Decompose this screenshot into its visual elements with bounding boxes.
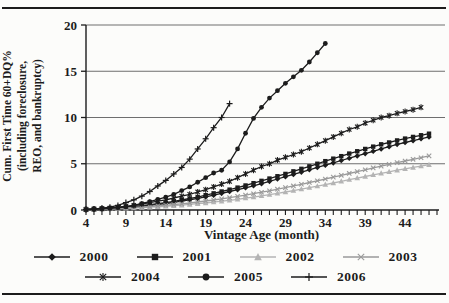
marker-circle <box>235 147 240 152</box>
series-2002-line <box>86 165 429 210</box>
y-tick-label-20: 20 <box>64 18 77 33</box>
legend-item-2000: 2000 <box>32 247 109 266</box>
marker-diamond <box>338 158 344 164</box>
legend-item-2002: 2002 <box>238 247 315 266</box>
legend-label-2000: 2000 <box>80 249 109 265</box>
marker-square <box>379 142 383 146</box>
y-tick-label-0: 0 <box>71 203 78 218</box>
legend-marker-circle-icon <box>186 271 226 283</box>
marker-circle <box>291 74 296 79</box>
marker-diamond <box>330 160 336 166</box>
legend-marker-triangle-icon <box>238 251 278 263</box>
y-tick-label-15: 15 <box>64 64 78 79</box>
marker-diamond <box>362 151 368 157</box>
y-tick-label-10: 10 <box>64 110 77 125</box>
marker-square <box>411 135 415 139</box>
legend-marker-x-icon <box>341 251 381 263</box>
marker-square <box>371 144 375 148</box>
marker-square <box>395 138 399 142</box>
marker-square <box>299 167 303 171</box>
marker-circle <box>251 116 256 121</box>
marker-square <box>331 156 335 160</box>
marker-square <box>339 154 343 158</box>
marker-circle <box>299 68 304 73</box>
marker-circle <box>171 192 176 197</box>
legend-label-2001: 2001 <box>183 249 212 265</box>
x-axis-label: Vintage Age (month) <box>86 227 437 243</box>
marker-diamond <box>370 148 376 154</box>
marker-square <box>251 181 255 185</box>
legend-item-2005: 2005 <box>186 267 263 286</box>
chart-plot-area: 051015204914192429343944 <box>0 0 449 246</box>
marker-triangle <box>426 162 432 167</box>
marker-circle <box>283 81 288 86</box>
legend-label-2005: 2005 <box>234 269 263 285</box>
marker-circle <box>147 199 152 204</box>
marker-square <box>227 187 231 191</box>
marker-circle <box>179 188 184 193</box>
legend-label-2004: 2004 <box>131 269 160 285</box>
marker-square <box>291 169 295 173</box>
y-axis-label: Cum. First Time 60+DQ% (including forecl… <box>0 21 48 211</box>
marker-circle <box>195 180 200 185</box>
legend-item-2004: 2004 <box>83 267 160 286</box>
marker-square <box>427 131 431 135</box>
marker-square <box>211 191 215 195</box>
legend-marker-diamond-icon <box>32 251 72 263</box>
y-axis-label-line2: (including foreclosure, <box>15 21 30 211</box>
marker-circle <box>259 105 264 110</box>
marker-square <box>323 159 327 163</box>
marker-square <box>307 164 311 168</box>
marker-square <box>203 193 207 197</box>
legend-item-2001: 2001 <box>135 247 212 266</box>
marker-square <box>403 136 407 140</box>
marker-circle <box>203 175 208 180</box>
marker-square <box>267 176 271 180</box>
marker-diamond <box>354 153 360 159</box>
marker-diamond <box>386 144 392 150</box>
legend-label-2006: 2006 <box>337 269 366 285</box>
marker-square <box>235 185 239 189</box>
legend-row-2: 200420052006 <box>83 267 366 286</box>
marker-circle <box>307 60 312 65</box>
marker-circle <box>155 197 160 202</box>
legend-label-2002: 2002 <box>286 249 315 265</box>
marker-diamond <box>378 146 384 152</box>
marker-circle <box>211 171 216 176</box>
marker-diamond <box>48 253 56 261</box>
y-axis-label-line3: REO, and bankruptcy) <box>30 21 45 211</box>
marker-square <box>219 189 223 193</box>
marker-circle <box>139 201 144 206</box>
marker-square <box>243 183 247 187</box>
marker-circle <box>187 184 192 189</box>
marker-circle <box>203 273 210 280</box>
marker-square <box>387 140 391 144</box>
legend-marker-square-icon <box>135 251 175 263</box>
legend-item-2006: 2006 <box>289 267 366 286</box>
marker-circle <box>315 50 320 55</box>
marker-square <box>151 253 157 259</box>
marker-square <box>195 195 199 199</box>
legend-item-2003: 2003 <box>341 247 418 266</box>
marker-circle <box>227 160 232 165</box>
legend-marker-asterisk-icon <box>83 271 123 283</box>
marker-square <box>347 151 351 155</box>
marker-square <box>315 162 319 166</box>
marker-square <box>363 147 367 151</box>
legend-row-1: 2000200120022003 <box>32 247 418 266</box>
chart-legend: 2000200120022003200420052006 <box>0 247 449 286</box>
marker-diamond <box>346 155 352 161</box>
marker-square <box>419 133 423 137</box>
marker-square <box>355 149 359 153</box>
bottom-rule-line <box>2 293 446 295</box>
series-2006-line <box>86 104 230 210</box>
marker-square <box>275 174 279 178</box>
legend-marker-plus-icon <box>289 271 329 283</box>
marker-square <box>259 179 263 183</box>
marker-circle <box>219 168 224 173</box>
y-tick-label-5: 5 <box>71 156 78 171</box>
marker-circle <box>243 131 248 136</box>
marker-circle <box>275 88 280 93</box>
series-2005-line <box>86 44 325 210</box>
marker-circle <box>267 96 272 101</box>
